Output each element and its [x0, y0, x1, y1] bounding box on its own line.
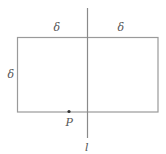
point-p-marker	[67, 110, 70, 113]
line-l-label: l	[85, 141, 89, 154]
point-p-label: P	[65, 116, 74, 129]
delta-label-left: δ	[8, 68, 15, 81]
delta-label-top-right: δ	[118, 21, 125, 34]
delta-label-top-left: δ	[54, 21, 61, 34]
geometry-diagram: δ δ δ P l	[0, 0, 166, 154]
